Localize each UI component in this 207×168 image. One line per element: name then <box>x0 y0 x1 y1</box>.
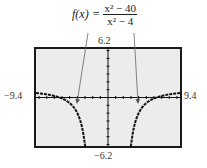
graph-plot <box>0 0 207 168</box>
